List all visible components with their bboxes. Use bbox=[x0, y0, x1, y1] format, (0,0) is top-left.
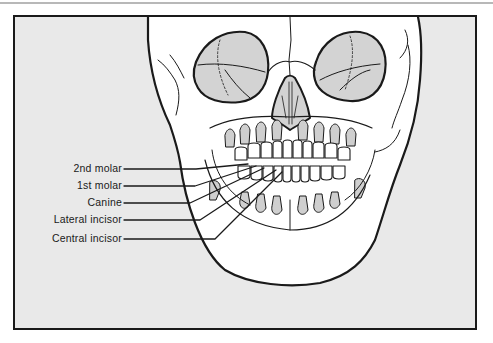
label-central-incisor: Central incisor bbox=[52, 232, 122, 244]
label-1st-molar: 1st molar bbox=[77, 179, 122, 191]
label-lateral-incisor: Lateral incisor bbox=[54, 213, 122, 225]
label-canine: Canine bbox=[88, 196, 122, 208]
label-2nd-molar: 2nd molar bbox=[74, 162, 123, 174]
